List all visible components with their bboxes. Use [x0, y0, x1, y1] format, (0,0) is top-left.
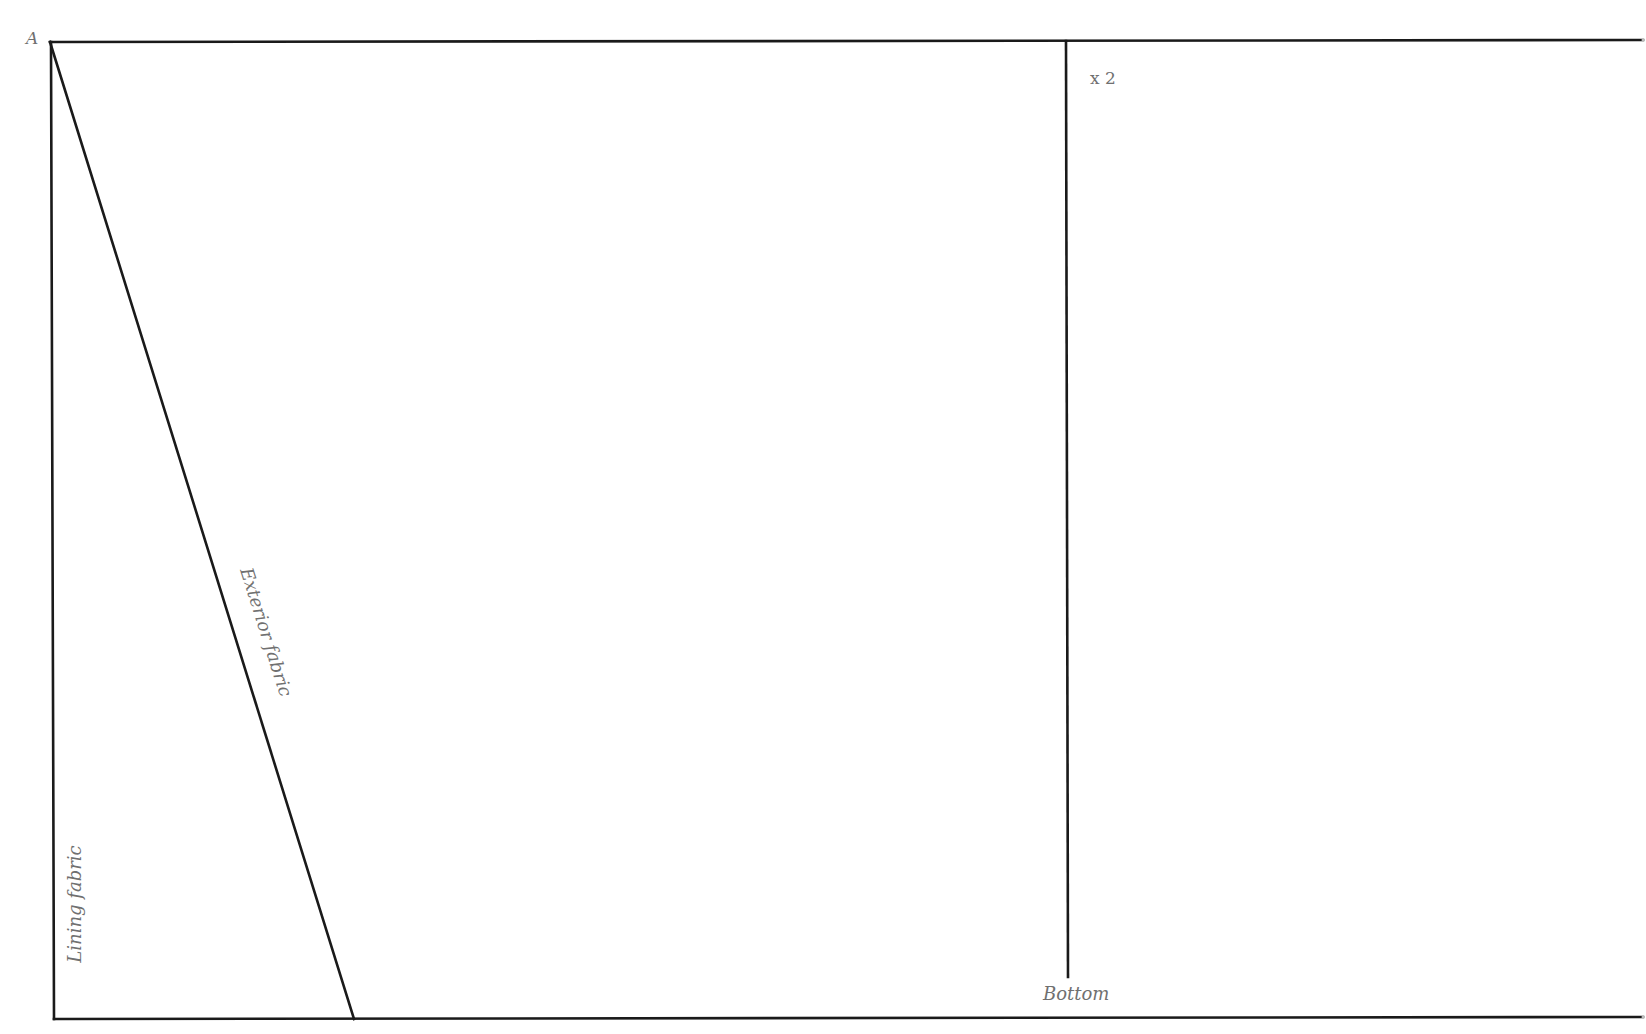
- pattern-diagram: [0, 0, 1646, 1034]
- top-right-marker: [1642, 39, 1645, 42]
- left-edge-line: [51, 42, 54, 1019]
- bottom-label: Bottom: [1043, 985, 1109, 1003]
- diagonal-divider-line: [50, 42, 354, 1019]
- corner-a-label: A: [26, 30, 38, 47]
- top-edge-line: [50, 40, 1643, 42]
- quantity-label: x 2: [1090, 70, 1116, 87]
- lining-fabric-label: Lining fabric: [66, 845, 84, 962]
- bottom-right-marker: [1642, 1016, 1645, 1019]
- bottom-edge-line: [54, 1017, 1643, 1019]
- fold-line: [1066, 41, 1068, 977]
